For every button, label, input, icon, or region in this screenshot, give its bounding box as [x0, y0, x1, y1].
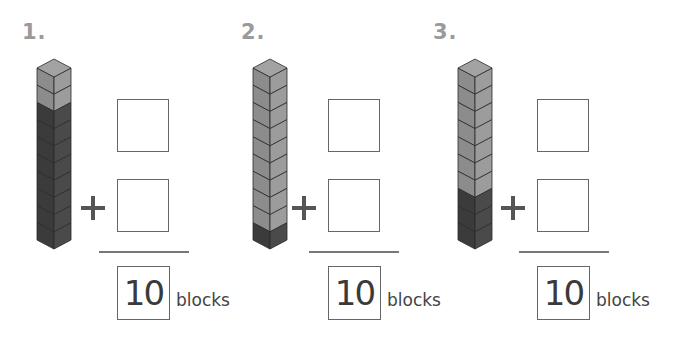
total-box: 10	[537, 266, 590, 320]
unit-label: blocks	[596, 290, 650, 310]
problem-number: 3.	[433, 20, 458, 44]
problem-3: 3. 10 blocks	[0, 0, 691, 340]
answer-box-top[interactable]	[537, 99, 589, 152]
sum-line	[519, 251, 609, 253]
block-tower-icon	[457, 58, 493, 252]
plus-sign-icon	[501, 196, 525, 220]
answer-box-bottom[interactable]	[537, 179, 589, 232]
